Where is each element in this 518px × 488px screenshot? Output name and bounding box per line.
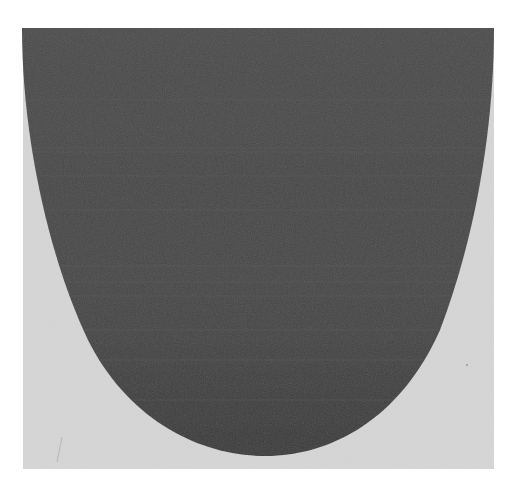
speck: [466, 364, 468, 366]
artwork-canvas: [0, 0, 518, 488]
artwork: Abstract minimalist artwork: dark grey U…: [0, 0, 518, 488]
